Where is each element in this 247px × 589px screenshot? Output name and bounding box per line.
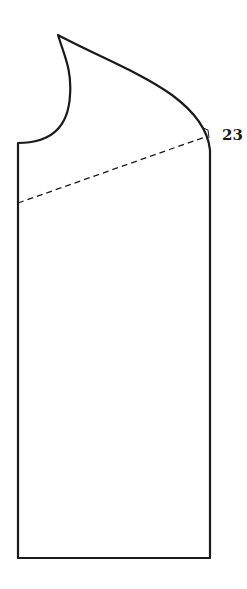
dashed-guide-line: [18, 137, 205, 203]
pattern-diagram: 23: [0, 0, 247, 589]
pattern-outline-svg: [0, 0, 247, 589]
pattern-outline: [18, 35, 210, 558]
measurement-label-23: 23: [222, 128, 243, 143]
